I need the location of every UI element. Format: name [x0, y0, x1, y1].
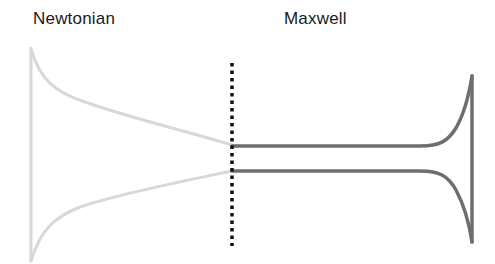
- maxwell-shape: [232, 76, 472, 242]
- newtonian-shape: [31, 48, 232, 261]
- maxwell-upper-curve: [232, 76, 472, 146]
- newtonian-maxwell-diagram: [0, 0, 495, 264]
- newtonian-lower-curve: [31, 171, 232, 261]
- newtonian-upper-curve: [31, 49, 232, 145]
- maxwell-lower-curve: [232, 171, 472, 242]
